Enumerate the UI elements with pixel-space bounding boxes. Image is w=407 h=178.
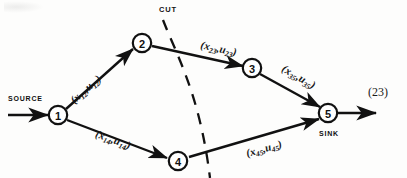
node-1[interactable]: 1 <box>49 106 67 124</box>
svg-text:(x14,u14): (x14,u14) <box>93 127 132 153</box>
node-5-label: 5 <box>325 108 331 120</box>
svg-text:(x45,u45): (x45,u45) <box>245 137 284 161</box>
node-5[interactable]: 5 <box>319 104 337 122</box>
equation-number: (23) <box>368 85 388 99</box>
network-flow-figure: SOURCE SINK CUT 1 <box>0 0 407 178</box>
source-label: SOURCE <box>8 95 43 102</box>
node-4-label: 4 <box>175 156 182 168</box>
flow-graph-canvas: SOURCE SINK CUT 1 <box>0 0 407 178</box>
svg-text:(x12,u12): (x12,u12) <box>68 72 105 107</box>
edge-label-4-5: (x45,u45) <box>245 137 284 161</box>
sink-label: SINK <box>319 130 339 137</box>
edge-label-1-4: (x14,u14) <box>93 127 132 153</box>
cut-label: CUT <box>159 5 177 14</box>
node-3-label: 3 <box>249 63 255 75</box>
edge-label-1-2: (x12,u12) <box>68 72 105 107</box>
node-2[interactable]: 2 <box>133 34 151 52</box>
node-2-label: 2 <box>139 38 145 50</box>
node-1-label: 1 <box>55 110 61 122</box>
node-3[interactable]: 3 <box>243 59 261 77</box>
node-4[interactable]: 4 <box>169 152 187 170</box>
